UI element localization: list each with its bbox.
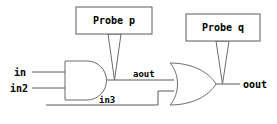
probe-p-tail — [108, 34, 121, 80]
wire-label-aout: aout — [133, 69, 155, 79]
wire-label-in3: in3 — [99, 95, 115, 105]
circuit-diagram: Probe p Probe q in in2 in3 aout oout — [0, 0, 277, 124]
wire-label-oout: oout — [243, 79, 267, 90]
circuit-canvas: Probe p Probe q in in2 in3 aout oout — [0, 0, 277, 124]
input-label-in: in — [14, 67, 26, 78]
probe-q-tail — [216, 41, 229, 84]
input-label-in2: in2 — [10, 83, 28, 94]
or-gate-body[interactable] — [170, 63, 216, 105]
probe-p-label: Probe p — [93, 15, 135, 26]
probe-q-label: Probe q — [202, 22, 244, 33]
